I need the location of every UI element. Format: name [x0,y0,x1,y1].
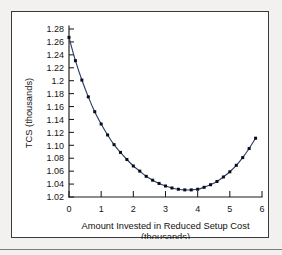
data-point-marker [68,36,71,39]
y-tick-label: 1.26 [46,37,64,47]
x-tick-label: 4 [195,204,200,214]
chart-frame: 1.021.041.061.081.101.121.141.161.181.21… [11,11,269,238]
data-point-marker [119,151,122,154]
x-tick-label: 5 [227,204,232,214]
data-point-marker [158,182,161,185]
y-axis-group: 1.021.041.061.081.101.121.141.161.181.21… [46,24,74,202]
y-tick-labels: 1.021.041.061.081.101.121.141.161.181.21… [46,24,64,202]
data-point-marker [222,175,225,178]
data-point-marker [209,183,212,186]
data-point-marker [164,185,167,188]
data-point-marker [203,186,206,189]
x-tick-label: 2 [131,204,136,214]
y-tick-label: 1.08 [46,153,64,163]
data-point-marker [215,180,218,183]
y-tick-label: 1.16 [46,102,64,112]
y-tick-label: 1.24 [46,50,64,60]
data-point-marker [190,188,193,191]
series-group [68,36,258,191]
data-point-marker [80,79,83,82]
data-point-marker [138,170,141,173]
x-tick-label: 1 [99,204,104,214]
y-tick-label: 1.18 [46,89,64,99]
data-point-marker [177,188,180,191]
tcs-cost-curve-chart: 1.021.041.061.081.101.121.141.161.181.21… [12,12,270,239]
data-point-marker [113,143,116,146]
data-point-marker [254,137,257,140]
data-point-marker [235,164,238,167]
data-point-marker [248,147,251,150]
data-point-marker [132,164,135,167]
x-axis-group: 0123456 [66,191,264,214]
data-point-marker [100,122,103,125]
data-point-marker [241,156,244,159]
figure-root: 1.021.041.061.081.101.121.141.161.181.21… [0,0,282,255]
data-point-marker [183,188,186,191]
data-point-marker [170,186,173,189]
y-tick-label: 1.06 [46,166,64,176]
data-point-marker [93,110,96,113]
data-point-marker [151,179,154,182]
y-tick-label: 1.02 [46,192,64,202]
y-tick-label: 1.2 [51,76,64,86]
page-bottom-rule [0,249,282,250]
y-tick-label: 1.12 [46,128,64,138]
data-point-marker [106,133,109,136]
y-tick-label: 1.04 [46,179,64,189]
data-point-marker [196,188,199,191]
x-tick-label: 6 [259,204,264,214]
x-axis-units-label: (thousands) [141,232,190,239]
tcs-curve [69,37,256,190]
y-tick-label: 1.10 [46,141,64,151]
y-tick-label: 1.14 [46,115,64,125]
data-point-marker [145,175,148,178]
data-point-marker [125,158,128,161]
x-tick-labels: 0123456 [66,204,264,214]
y-tick-label: 1.22 [46,63,64,73]
x-tick-marks [69,191,262,197]
x-tick-label: 0 [66,204,71,214]
x-tick-label: 3 [163,204,168,214]
data-point-marker [87,95,90,98]
x-axis-title: Amount Invested in Reduced Setup Cost [82,221,250,231]
data-point-marker [228,170,231,173]
data-point-marker [74,59,77,62]
y-tick-label: 1.28 [46,24,64,34]
y-axis-title: TCS (thousands) [24,78,34,148]
